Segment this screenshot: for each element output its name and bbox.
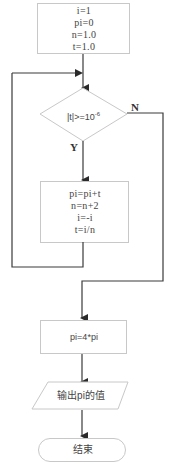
decision-exponent: -6 [95, 111, 100, 117]
init-box-text: i=1 pi=0 n=1.0 t=1.0 [38, 5, 130, 53]
output-text: 输出pi的值 [34, 390, 128, 402]
decision-text: |t|>=10-6 [40, 108, 127, 123]
calc-box-text: pi=4*pi [41, 331, 127, 343]
loop-line-3: i=-i [41, 212, 129, 224]
decision-condition: |t|>=10 [67, 112, 95, 122]
end-text: 结束 [39, 444, 126, 456]
init-line-4: t=1.0 [38, 41, 130, 53]
flowchart-canvas [0, 0, 171, 474]
yes-label: Y [70, 141, 78, 153]
loop-line-1: pi=pi+t [41, 188, 129, 200]
init-line-3: n=1.0 [38, 29, 130, 41]
loop-box-text: pi=pi+t n=n+2 i=-i t=i/n [41, 188, 129, 236]
loop-line-2: n=n+2 [41, 200, 129, 212]
init-line-2: pi=0 [38, 17, 130, 29]
init-line-1: i=1 [38, 5, 130, 17]
no-label: N [131, 101, 139, 113]
loop-line-4: t=i/n [41, 224, 129, 236]
